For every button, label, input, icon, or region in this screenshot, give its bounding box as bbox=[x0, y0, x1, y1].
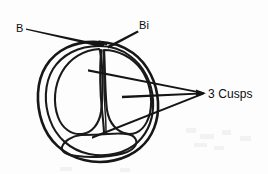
valve-cross-section-diagram: B Bi 3 Cusps bbox=[0, 0, 268, 174]
figure-root: B Bi 3 Cusps bbox=[0, 0, 268, 174]
leader-cusp-arrowhead bbox=[196, 90, 206, 97]
leader-b-line bbox=[26, 28, 98, 46]
leader-cusp-middle bbox=[122, 92, 204, 98]
cusp-left bbox=[55, 49, 103, 134]
valve-cusps-group bbox=[55, 49, 151, 157]
leader-b bbox=[26, 28, 98, 46]
leader-bi-line bbox=[107, 31, 139, 49]
cusp-bottom bbox=[62, 133, 137, 157]
label-3-cusps: 3 Cusps bbox=[208, 87, 253, 101]
leader-bi bbox=[107, 31, 139, 49]
label-bi: Bi bbox=[139, 19, 149, 31]
label-b: B bbox=[16, 22, 23, 34]
